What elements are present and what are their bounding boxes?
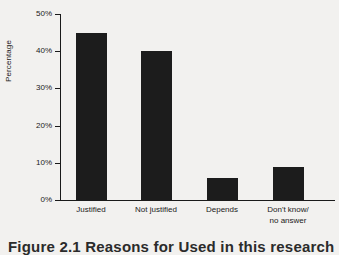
bar	[207, 178, 238, 200]
y-axis-tick-label: 40%	[12, 47, 52, 55]
x-axis-tick-label: Don't know/ no answer	[243, 205, 333, 226]
y-axis-tick-label: 0%	[12, 196, 52, 204]
y-axis-tick	[55, 200, 60, 201]
y-axis-tick-label: 50%	[12, 10, 52, 18]
figure-caption: Figure 2.1 Reasons for Used in this rese…	[8, 238, 339, 255]
x-axis-line	[60, 200, 335, 201]
y-axis-tick-label: 30%	[12, 84, 52, 92]
bar	[141, 51, 172, 200]
bar	[273, 167, 304, 200]
y-axis-tick-label: 10%	[12, 159, 52, 167]
plot-area	[60, 14, 335, 200]
y-axis-tick-label: 20%	[12, 122, 52, 130]
bar	[76, 33, 107, 200]
